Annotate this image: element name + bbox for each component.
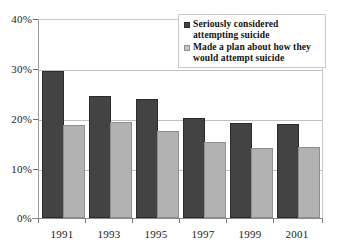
legend-item-plan: Made a plan about how they would attempt… [184, 42, 321, 63]
bar-considered-1999 [230, 123, 252, 218]
x-tick-label-1995: 1995 [144, 228, 167, 240]
bar-group-1991 [42, 19, 85, 218]
x-tick-label-1999: 1999 [238, 228, 261, 240]
x-tick-mark-5 [273, 218, 274, 223]
chart-legend: Seriously considered attempting suicide … [178, 14, 326, 68]
bar-plan-1995 [157, 131, 179, 218]
x-tick-label-1997: 1997 [191, 228, 214, 240]
bar-group-1995 [136, 19, 179, 218]
bar-plan-2001 [298, 147, 320, 218]
bar-considered-2001 [277, 124, 299, 218]
bar-considered-1995 [136, 99, 158, 218]
bar-plan-1999 [251, 148, 273, 218]
x-tick-label-1991: 1991 [50, 228, 73, 240]
bar-chart: 40% 30% 20% 10% 0% [0, 0, 344, 250]
dark-square-icon [184, 22, 190, 28]
bar-group-1993 [89, 19, 132, 218]
y-axis: 40% 30% 20% 10% 0% [0, 0, 32, 250]
bar-considered-1993 [89, 96, 111, 218]
light-square-icon [184, 45, 190, 51]
x-tick-mark-3 [179, 218, 180, 223]
y-tick-label-10: 10% [2, 163, 32, 175]
bar-considered-1991 [42, 71, 64, 218]
x-tick-mark-6 [322, 218, 323, 223]
x-tick-label-2001: 2001 [285, 228, 308, 240]
bar-plan-1997 [204, 142, 226, 218]
legend-label-plan: Made a plan about how they would attempt… [193, 42, 321, 63]
y-tick-label-30: 30% [2, 63, 32, 75]
bar-plan-1991 [63, 125, 85, 218]
x-tick-mark-0 [38, 218, 39, 223]
bar-considered-1997 [183, 118, 205, 218]
y-tick-label-40: 40% [2, 13, 32, 25]
legend-item-considered: Seriously considered attempting suicide [184, 19, 321, 40]
y-tick-label-0: 0% [2, 212, 32, 224]
y-tick-label-20: 20% [2, 113, 32, 125]
legend-label-considered: Seriously considered attempting suicide [193, 19, 321, 40]
x-tick-mark-2 [132, 218, 133, 223]
x-tick-mark-4 [226, 218, 227, 223]
bar-plan-1993 [110, 122, 132, 218]
x-axis-baseline [32, 218, 323, 219]
x-tick-label-1993: 1993 [97, 228, 120, 240]
x-tick-mark-1 [85, 218, 86, 223]
